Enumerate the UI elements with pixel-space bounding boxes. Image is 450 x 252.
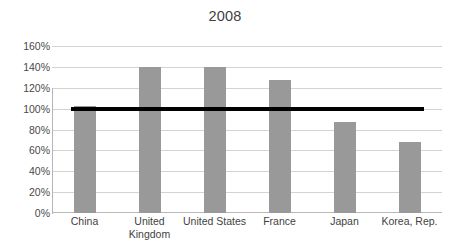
y-tick-label: 160% [4, 40, 50, 52]
bar-chart: 2008 0%20%40%60%80%100%120%140%160% Chin… [0, 0, 450, 252]
y-tick-label: 140% [4, 61, 50, 73]
x-tick-label-line: United States [182, 215, 247, 228]
x-axis-tick-labels: ChinaUnitedKingdomUnited StatesFranceJap… [52, 215, 442, 251]
bar-korea-rep [399, 142, 421, 213]
gridline-80% [52, 130, 442, 131]
y-tick-label: 20% [4, 186, 50, 198]
bar-china [74, 106, 96, 214]
x-tick-label-line: Korea, Rep. [377, 215, 442, 228]
x-tick-label-line: Japan [312, 215, 377, 228]
x-tick-label-line: France [247, 215, 312, 228]
y-axis-line [52, 88, 53, 214]
gridline-20% [52, 192, 442, 193]
gridline-120% [52, 88, 442, 89]
bar-france [269, 80, 291, 213]
y-tick-label: 0% [4, 207, 50, 219]
plot-area [52, 46, 442, 213]
gridline-160% [52, 46, 442, 47]
reference-line-100-percent [71, 107, 424, 111]
x-tick-label-line: Kingdom [117, 228, 182, 241]
x-tick-label-line: China [52, 215, 117, 228]
x-tick-label: Japan [312, 215, 377, 228]
gridline-0% [52, 212, 442, 213]
x-tick-label-line: United [117, 215, 182, 228]
chart-title: 2008 [0, 8, 450, 24]
bar-united-kingdom [139, 67, 161, 213]
gridline-140% [52, 67, 442, 68]
bar-japan [334, 122, 356, 213]
x-tick-label: Korea, Rep. [377, 215, 442, 228]
x-tick-label: United States [182, 215, 247, 228]
y-tick-label: 60% [4, 144, 50, 156]
x-tick-label: France [247, 215, 312, 228]
y-axis-tick-labels: 0%20%40%60%80%100%120%140%160% [0, 46, 50, 213]
y-tick-label: 40% [4, 165, 50, 177]
gridline-40% [52, 171, 442, 172]
y-tick-label: 120% [4, 82, 50, 94]
gridline-60% [52, 150, 442, 151]
x-tick-label: UnitedKingdom [117, 215, 182, 240]
x-tick-label: China [52, 215, 117, 228]
y-tick-label: 80% [4, 124, 50, 136]
y-tick-label: 100% [4, 103, 50, 115]
bar-united-states [204, 67, 226, 213]
